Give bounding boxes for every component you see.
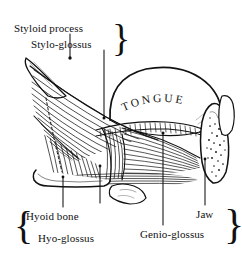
label-jaw: Jaw [196, 208, 213, 220]
brace-bottom-left: { [14, 206, 33, 246]
label-genio-glossus: Genio-glossus [140, 228, 204, 240]
anatomical-figure: TONGUE Styloid process Stylo-glossus Hyo… [0, 0, 242, 258]
epiglottis [219, 96, 234, 136]
brace-bottom-right: } [224, 203, 242, 245]
genio-glossus-muscle [124, 130, 200, 178]
vertical-muscle-band [104, 128, 123, 180]
label-stylo-glossus: Stylo-glossus [31, 38, 92, 50]
label-hyoid-bone: Hyoid bone [26, 210, 79, 222]
label-styloid-process: Styloid process [14, 22, 83, 34]
brace-top-right: } [112, 19, 130, 57]
label-hyo-glossus: Hyo-glossus [38, 232, 94, 244]
genial-tubercle [109, 184, 146, 204]
